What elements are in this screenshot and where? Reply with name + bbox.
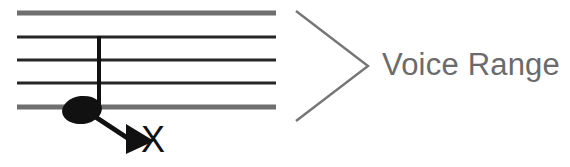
staff-lines xyxy=(17,13,276,107)
staff-figure xyxy=(0,0,570,167)
chevron-right-icon xyxy=(296,11,368,121)
voice-range-diagram: X Voice Range xyxy=(0,0,570,167)
note-name-label: X xyxy=(141,120,165,160)
voice-range-label: Voice Range xyxy=(382,47,560,83)
